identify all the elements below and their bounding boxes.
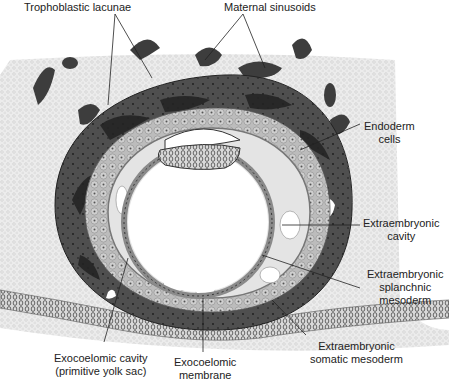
label-endoderm-cells: Endoderm cells [364, 120, 415, 146]
label-extraembryonic-somatic-mesoderm: Extraembryonic somatic mesoderm [310, 340, 403, 366]
label-exocoelomic-membrane: Exocoelomic membrane [174, 356, 236, 382]
label-maternal-sinusoids: Maternal sinusoids [224, 1, 316, 14]
embryo-illustration [0, 0, 449, 384]
label-trophoblastic-lacunae: Trophoblastic lacunae [24, 1, 131, 14]
label-extraembryonic-cavity: Extraembryonic cavity [363, 217, 439, 243]
diagram-canvas: Trophoblastic lacunae Maternal sinusoids… [0, 0, 449, 384]
exocoelomic-cavity [128, 152, 268, 292]
label-extraembryonic-splanchnic-mesoderm: Extraembryonic splanchnic mesoderm [367, 268, 443, 307]
embryonic-disc [158, 144, 240, 169]
label-exocoelomic-cavity: Exocoelomic cavity (primitive yolk sac) [54, 352, 148, 378]
